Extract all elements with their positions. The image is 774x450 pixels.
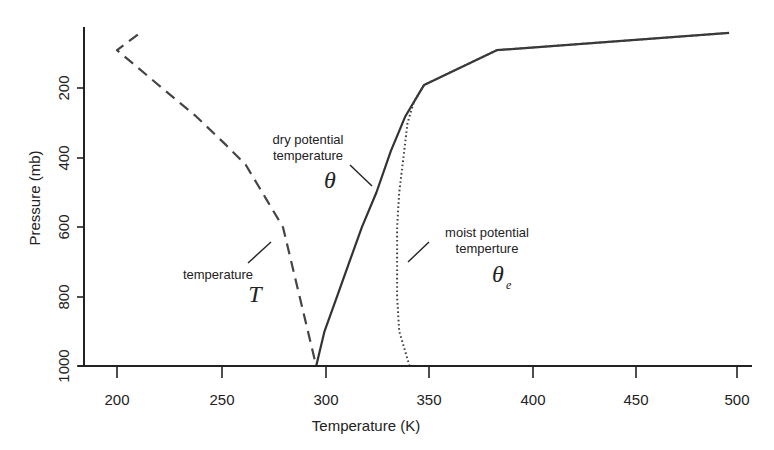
x-axis-ticks [117,366,737,378]
annotation-text: temperature [183,267,253,282]
x-tick-label: 350 [416,391,441,408]
annotation-text: temperture [456,241,519,256]
annotation-moist-potential-temperature: moist potential temperture θ e [408,225,529,292]
y-tick-label: 200 [55,75,72,100]
annotation-arrow [248,242,271,263]
x-tick-label: 200 [104,391,129,408]
y-tick-labels: 200 400 600 800 1000 [55,75,72,382]
series-dotted-line [397,33,729,366]
annotation-text: moist potential [445,225,529,240]
annotation-temperature: temperature T [183,242,271,307]
theta-symbol: θ [324,167,336,193]
annotation-arrow [350,165,372,186]
plot-area [117,33,729,366]
annotation-text: temperature [273,148,343,163]
x-tick-labels: 200 250 300 350 400 450 500 [104,391,749,408]
x-tick-label: 250 [209,391,234,408]
series-dashed-line [117,35,316,366]
x-tick-label: 450 [623,391,648,408]
y-tick-label: 800 [55,284,72,309]
annotation-text: dry potential [273,132,344,147]
y-tick-label: 400 [55,145,72,170]
x-tick-label: 300 [313,391,338,408]
annotation-arrow [408,242,429,262]
series-solid-line [316,33,729,366]
pressure-temperature-chart: 200 400 600 800 1000 200 250 300 350 400… [0,0,774,450]
y-axis-ticks [77,88,84,366]
theta-e-subscript: e [506,278,512,292]
annotation-dry-potential-temperature: dry potential temperature θ [273,132,372,193]
y-axis-title: Pressure (mb) [26,150,43,245]
x-tick-label: 500 [724,391,749,408]
y-tick-label: 1000 [55,349,72,382]
x-axis-title: Temperature (K) [312,417,420,434]
t-symbol: T [248,281,263,307]
theta-e-symbol: θ [492,261,504,287]
y-tick-label: 600 [55,214,72,239]
x-tick-label: 400 [520,391,545,408]
